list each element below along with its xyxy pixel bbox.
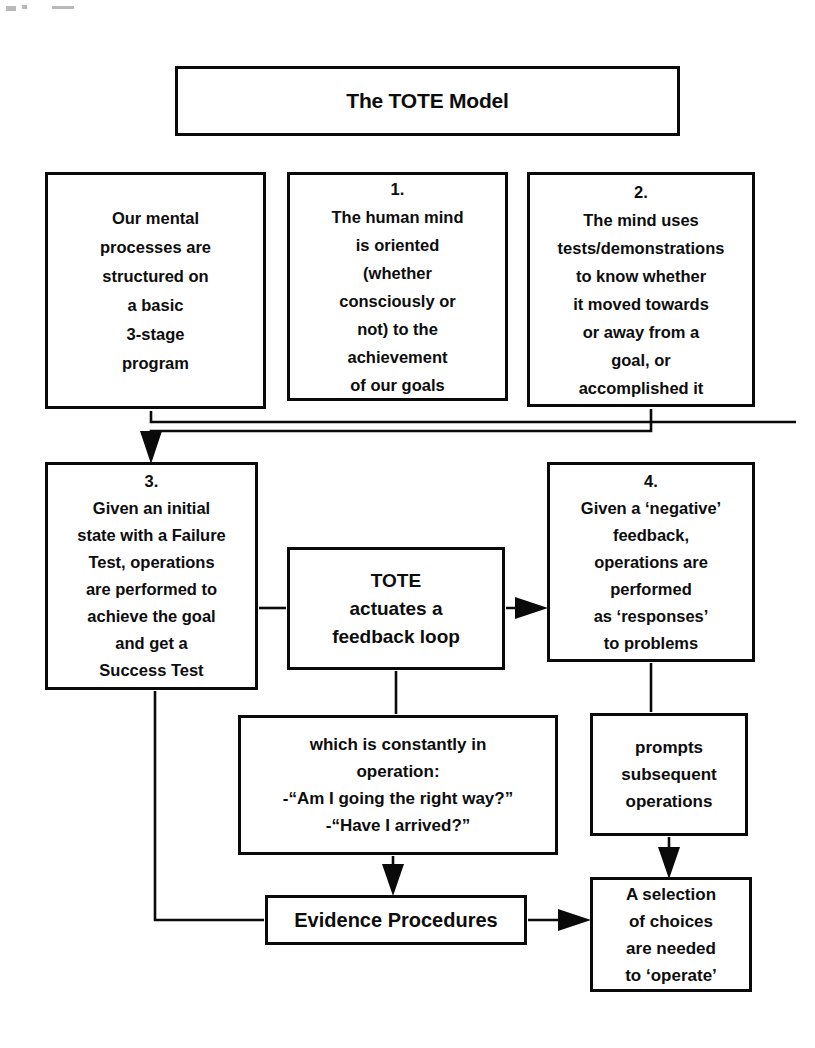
node-step-one: 1. The human mind is oriented (whether c… [287, 172, 508, 401]
arrowhead-down-step-three [140, 431, 162, 464]
scan-artifact [6, 6, 16, 11]
node-step-two: 2. The mind uses tests/demonstrations to… [527, 172, 755, 407]
node-which-constantly: which is constantly in operation: -“Am I… [238, 715, 558, 855]
node-step-four-label: 4. Given a ‘negative’ feedback, operatio… [550, 468, 752, 657]
arrowhead-down-selection [658, 847, 680, 879]
wire-mental-to-step-three [151, 411, 796, 422]
node-mental-processes: Our mental processes are structured on a… [45, 172, 266, 409]
node-evidence-procedures: Evidence Procedures [265, 895, 527, 945]
node-evidence-procedures-label: Evidence Procedures [268, 909, 524, 932]
node-selection-of-choices-label: A selection of choices are needed to ‘op… [593, 881, 749, 989]
node-step-three-label: 3. Given an initial state with a Failure… [48, 468, 255, 684]
diagram-title: The TOTE Model [178, 89, 677, 113]
diagram-title-box: The TOTE Model [175, 66, 680, 136]
node-tote-actuates: TOTE actuates a feedback loop [287, 547, 505, 670]
node-step-two-label: 2. The mind uses tests/demonstrations to… [530, 178, 752, 402]
scan-artifact [52, 6, 74, 9]
scan-artifact [22, 5, 27, 9]
node-step-three: 3. Given an initial state with a Failure… [45, 462, 258, 690]
node-prompts-subsequent: prompts subsequent operations [590, 713, 748, 836]
arrowhead-down-evidence [382, 864, 404, 896]
node-mental-processes-label: Our mental processes are structured on a… [48, 204, 263, 378]
node-selection-of-choices: A selection of choices are needed to ‘op… [590, 877, 752, 992]
arrowhead-right-step-four [515, 597, 548, 619]
arrowhead-right-selection [558, 909, 591, 931]
node-prompts-subsequent-label: prompts subsequent operations [593, 734, 745, 815]
node-step-one-label: 1. The human mind is oriented (whether c… [290, 175, 505, 399]
node-tote-actuates-label: TOTE actuates a feedback loop [290, 567, 502, 651]
node-step-four: 4. Given a ‘negative’ feedback, operatio… [547, 462, 755, 662]
node-which-constantly-label: which is constantly in operation: -“Am I… [241, 731, 555, 839]
wire-step-two-to-step-three [151, 409, 651, 455]
diagram-canvas: The TOTE Model Our mental processes are … [0, 0, 815, 1048]
